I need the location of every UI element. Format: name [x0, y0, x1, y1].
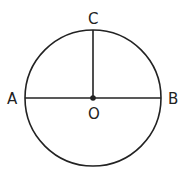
- label-c: C: [88, 10, 98, 28]
- circle-diagram: A B C O: [0, 0, 191, 182]
- label-a: A: [7, 90, 18, 108]
- label-o: O: [88, 105, 100, 123]
- center-point-o: [90, 95, 96, 101]
- label-b: B: [168, 90, 178, 108]
